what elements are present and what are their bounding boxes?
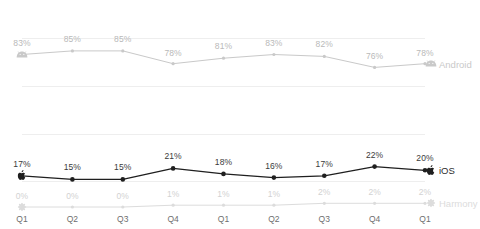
x-axis-label: Q3 [117,214,128,224]
data-label: 15% [114,162,131,172]
data-label: 78% [164,48,181,58]
x-axis-label: Q1 [419,214,430,224]
data-label: 85% [114,34,131,44]
harmony-flower-icon-end [426,194,436,212]
data-point [70,177,75,182]
data-point [121,49,124,52]
data-point [322,174,327,179]
data-label: 2% [368,187,381,197]
data-point [272,204,275,207]
data-point [71,205,74,208]
series-label-android: Android [439,58,472,69]
data-label: 21% [164,151,181,161]
android-robot-icon [16,44,29,62]
data-label: 0% [66,191,79,201]
data-point [373,66,376,69]
data-label: 1% [268,189,281,199]
data-label: 83% [265,38,282,48]
data-point [373,202,376,205]
x-axis-label: Q4 [369,214,380,224]
data-label: 15% [64,162,81,172]
data-point [372,164,377,169]
data-point [121,177,126,182]
data-label: 1% [167,189,180,199]
data-point [121,205,124,208]
data-point [272,175,277,180]
data-label: 2% [318,187,331,197]
series-label-harmony: Harmony [439,198,478,209]
data-point [172,204,175,207]
data-point [172,62,175,65]
data-point [222,204,225,207]
data-point [222,57,225,60]
data-label: 22% [366,150,383,160]
data-point [221,172,226,177]
data-label: 76% [366,51,383,61]
data-label: 85% [64,34,81,44]
data-label: 17% [316,159,333,169]
data-point [323,55,326,58]
series-harmony [22,202,427,209]
data-point [171,166,176,171]
data-point [323,202,326,205]
data-label: 0% [117,191,130,201]
x-axis-label: Q3 [319,214,330,224]
x-axis-label: Q2 [268,214,279,224]
line-chart: 83%85%85%78%81%83%82%76%78%17%15%15%21%1… [0,0,480,229]
series-label-ios: iOS [439,165,455,176]
data-label: 81% [215,41,232,51]
data-point [272,53,275,56]
data-label: 16% [265,161,282,171]
x-axis-label: Q2 [67,214,78,224]
x-axis-label: Q4 [167,214,178,224]
data-point [71,49,74,52]
apple-logo-icon-end [427,161,436,179]
apple-logo-icon [18,167,27,185]
data-label: 1% [217,189,230,199]
data-label: 18% [215,157,232,167]
harmony-flower-icon [17,198,27,216]
android-robot-icon-end [425,53,438,71]
x-axis-label: Q1 [218,214,229,224]
data-label: 82% [316,39,333,49]
